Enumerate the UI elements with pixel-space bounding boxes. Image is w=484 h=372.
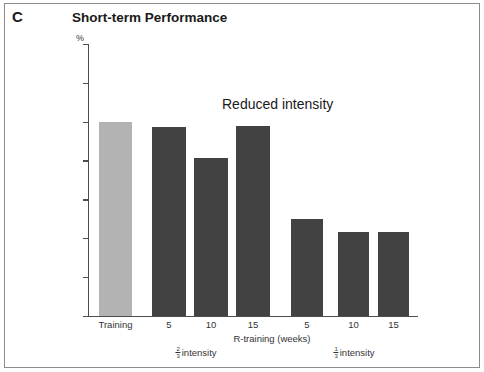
figure-panel-c: C Short-term Performance % 5060708090100… — [0, 0, 484, 372]
bar-1 — [99, 122, 132, 316]
bar-6 — [338, 232, 369, 315]
group-label-two-thirds-intensity: 2 3 intensity — [175, 346, 216, 359]
chart-annotation: Reduced intensity — [222, 96, 333, 112]
x-axis-tick-label: 15 — [248, 319, 259, 330]
group-label-text: intensity — [340, 347, 375, 358]
bar-4 — [236, 126, 270, 316]
fraction-numerator: 2 — [175, 346, 180, 353]
x-axis-tick-label: 5 — [166, 319, 171, 330]
x-axis-tick-label: Training — [99, 319, 133, 330]
x-axis-tick-label: 10 — [348, 319, 359, 330]
group-label-text: intensity — [182, 347, 217, 358]
fraction-one-third: 1 3 — [333, 346, 338, 359]
bar-5 — [291, 219, 323, 316]
x-axis-tick-label: 15 — [388, 319, 399, 330]
bar-3 — [194, 158, 228, 315]
bar-2 — [152, 127, 186, 315]
x-axis-title: R-training (weeks) — [233, 333, 310, 344]
x-axis-tick-label: 5 — [304, 319, 309, 330]
fraction-numerator: 1 — [333, 346, 338, 353]
bar-series: Training5101551015 — [0, 0, 484, 372]
fraction-denominator: 3 — [333, 353, 338, 359]
x-axis-tick-label: 10 — [206, 319, 217, 330]
fraction-two-thirds: 2 3 — [175, 346, 180, 359]
group-label-one-third-intensity: 1 3 intensity — [333, 346, 374, 359]
bar-7 — [378, 232, 409, 315]
fraction-denominator: 3 — [175, 353, 180, 359]
